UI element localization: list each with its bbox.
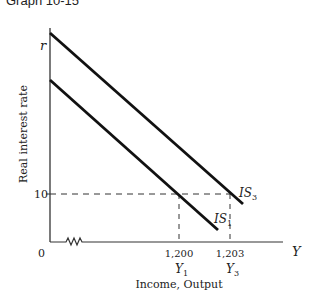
x-axis-with-break <box>50 238 283 245</box>
is1-curve <box>50 80 218 230</box>
y3-label: Y3 <box>226 262 239 278</box>
x-tick-label-1200: 1,200 <box>165 248 194 259</box>
y-axis-symbol: Y <box>292 244 302 259</box>
origin-label: 0 <box>38 247 45 260</box>
x-axis-title: Income, Output <box>135 278 223 291</box>
y-tick-label-10: 10 <box>34 188 48 201</box>
y-axis-title: Real interest rate <box>17 85 30 183</box>
is3-label: IS3 <box>238 186 257 202</box>
is1-label: IS1 <box>213 212 232 228</box>
is3-curve <box>50 33 243 204</box>
y1-label: Y1 <box>175 262 188 278</box>
r-axis-symbol: r <box>40 38 47 53</box>
is-curve-chart: r Y 0 10 1,200 1,203 Y1 Y3 IS3 IS1 Incom… <box>0 0 309 307</box>
x-tick-label-1203: 1,203 <box>216 248 245 259</box>
